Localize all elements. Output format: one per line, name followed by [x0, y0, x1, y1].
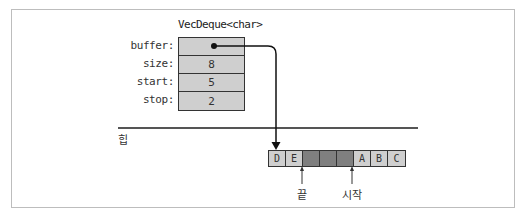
buffer-cell-2	[303, 151, 320, 166]
buffer-cell-0: D	[269, 151, 286, 166]
buffer-cell-5: A	[354, 151, 371, 166]
pointer-arrowhead-icon	[272, 142, 281, 150]
connectors	[0, 0, 532, 218]
start-marker-label: 시작	[342, 186, 362, 202]
heap-buffer: D E A B C	[268, 150, 406, 167]
buffer-cell-3	[320, 151, 337, 166]
buffer-cell-1: E	[286, 151, 303, 166]
buffer-cell-6: B	[371, 151, 388, 166]
buffer-cell-7: C	[388, 151, 405, 166]
heap-label: 힙	[118, 131, 128, 147]
end-marker-label: 끝	[297, 186, 307, 202]
buffer-cell-4	[337, 151, 354, 166]
